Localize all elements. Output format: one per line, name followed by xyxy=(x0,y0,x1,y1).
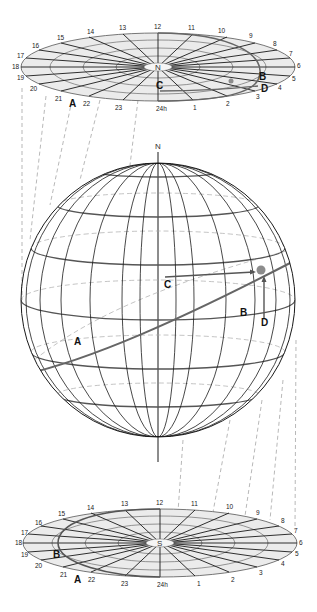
hour-label-23-bottom: 23 xyxy=(121,580,129,587)
hour-label-9-bottom: 9 xyxy=(256,509,260,516)
hour-label-16: 16 xyxy=(32,42,40,49)
path-label-c: C xyxy=(164,279,171,290)
hour-label-11-bottom: 11 xyxy=(191,500,198,507)
hour-label-14: 14 xyxy=(87,28,95,35)
hour-label-3: 3 xyxy=(256,93,260,100)
hour-label-11: 11 xyxy=(188,24,195,31)
path-label-b-top: B xyxy=(259,71,266,82)
south-polar-disk: S 24h 1 2 3 4 5 6 7 8 9 10 11 12 13 14 1… xyxy=(15,499,303,588)
hour-label-23: 23 xyxy=(115,104,123,111)
hour-label-22-bottom: 22 xyxy=(88,576,96,583)
hour-label-22: 22 xyxy=(83,100,91,107)
hour-label-10: 10 xyxy=(218,27,226,34)
hour-label-19-bottom: 19 xyxy=(21,551,29,558)
path-label-a-top: A xyxy=(69,98,76,109)
hour-label-7-bottom: 7 xyxy=(294,527,298,534)
path-c-arrow xyxy=(165,272,254,277)
hour-label-17-bottom: 17 xyxy=(21,529,29,536)
sphere-north-label: N xyxy=(155,142,161,151)
hour-label-13: 13 xyxy=(119,24,127,31)
hour-label-20: 20 xyxy=(30,85,38,92)
path-label-b-bottom: B xyxy=(53,549,60,560)
hour-label-2: 2 xyxy=(226,100,230,107)
star-marker-top xyxy=(229,79,234,84)
hour-label-1-bottom: 1 xyxy=(197,580,201,587)
hour-label-3-bottom: 3 xyxy=(259,569,263,576)
hour-label-12-bottom: 12 xyxy=(156,499,164,506)
hour-label-4-bottom: 4 xyxy=(281,560,285,567)
hour-label-8: 8 xyxy=(273,40,277,47)
hour-label-6-bottom: 6 xyxy=(299,539,303,546)
path-label-d: D xyxy=(261,317,268,328)
hour-label-15-bottom: 15 xyxy=(58,510,66,517)
celestial-sphere: N xyxy=(21,142,295,462)
hour-label-20-bottom: 20 xyxy=(35,562,43,569)
hour-label-15: 15 xyxy=(57,34,65,41)
path-label-b: B xyxy=(240,307,247,318)
path-label-a-bottom: A xyxy=(74,574,81,585)
hour-label-19: 19 xyxy=(17,74,25,81)
hour-label-21-bottom: 21 xyxy=(60,571,68,578)
hour-label-18-bottom: 18 xyxy=(15,539,23,546)
hour-label-7: 7 xyxy=(289,50,293,57)
path-label-a: A xyxy=(74,336,81,347)
hour-label-5-bottom: 5 xyxy=(295,550,299,557)
hour-label-14-bottom: 14 xyxy=(87,504,95,511)
hour-label-5: 5 xyxy=(292,75,296,82)
path-label-d-top: D xyxy=(261,83,268,94)
north-polar-disk: N 24h 1 2 3 4 5 6 7 8 9 10 11 12 13 14 1… xyxy=(12,23,301,112)
hour-label-2-bottom: 2 xyxy=(231,576,235,583)
hour-label-12: 12 xyxy=(154,23,162,30)
hour-label-4: 4 xyxy=(278,84,282,91)
hour-label-18: 18 xyxy=(12,63,20,70)
hour-label-8-bottom: 8 xyxy=(281,517,285,524)
hour-label-13-bottom: 13 xyxy=(121,500,129,507)
hour-label-1: 1 xyxy=(193,104,197,111)
south-pole-label: S xyxy=(157,539,162,548)
hour-label-6: 6 xyxy=(297,62,301,69)
hour-label-24-bottom: 24h xyxy=(157,581,168,588)
hour-label-9: 9 xyxy=(249,32,253,39)
hour-label-16-bottom: 16 xyxy=(35,519,43,526)
star-marker xyxy=(257,266,266,275)
celestial-sphere-diagram: N 24h 1 2 3 4 5 6 7 8 9 10 11 12 13 14 1… xyxy=(0,0,317,612)
path-label-c-top: C xyxy=(156,80,163,91)
hour-label-24: 24h xyxy=(156,105,167,112)
hour-label-21: 21 xyxy=(55,95,63,102)
north-pole-label: N xyxy=(155,63,161,72)
hour-label-17: 17 xyxy=(17,52,25,59)
hour-label-10-bottom: 10 xyxy=(226,503,234,510)
